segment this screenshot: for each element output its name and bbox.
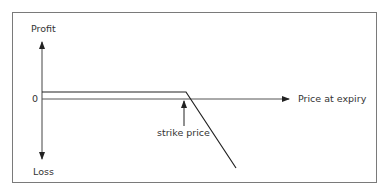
payoff-diagram: Profit Loss 0 Price at expiry strike pri… [0,0,390,191]
x-axis-label: Price at expiry [298,93,367,104]
loss-label: Loss [33,166,54,177]
profit-label: Profit [31,23,56,34]
strike-price-label: strike price [157,127,210,138]
zero-label: 0 [32,93,38,104]
